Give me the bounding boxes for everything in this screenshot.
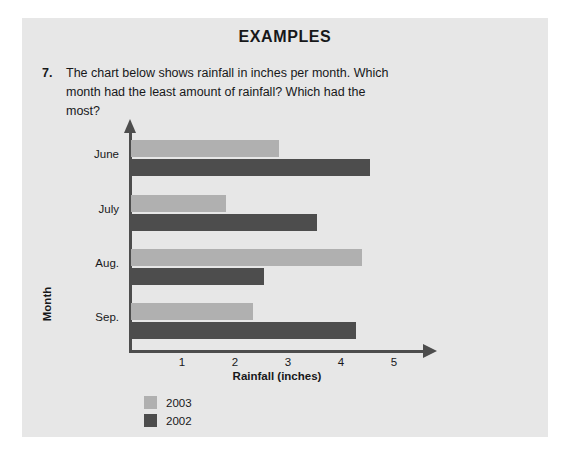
y-axis-title: Month — [41, 259, 53, 349]
bar-sep-2002 — [131, 322, 356, 339]
y-axis-category-label: Aug. — [95, 257, 119, 269]
bar-june-2002 — [131, 159, 370, 176]
y-axis-arrow-icon — [124, 119, 136, 133]
legend-swatch-icon — [144, 396, 157, 409]
chart-legend: 20032002 — [144, 396, 192, 432]
rainfall-bar-chart: Month JuneJulyAug.Sep. 12345 Rainfall (i… — [22, 118, 548, 438]
x-axis-arrow-icon — [423, 344, 437, 358]
x-axis-tick-label: 1 — [167, 356, 197, 368]
x-axis-line — [129, 350, 425, 353]
x-axis-title: Rainfall (inches) — [129, 370, 425, 382]
question-text: The chart below shows rainfall in inches… — [66, 64, 396, 121]
x-axis-tick-label: 5 — [379, 356, 409, 368]
x-axis-tick-label: 2 — [220, 356, 250, 368]
bar-sep-2003 — [131, 303, 253, 320]
bar-aug-2002 — [131, 268, 264, 285]
legend-label: 2003 — [166, 397, 192, 409]
y-axis-category-label: June — [94, 148, 119, 160]
bar-june-2003 — [131, 140, 279, 157]
question-number: 7. — [42, 64, 66, 83]
x-axis-tick-label: 3 — [273, 356, 303, 368]
page-title: EXAMPLES — [22, 28, 548, 46]
legend-label: 2002 — [166, 415, 192, 427]
worksheet-panel: EXAMPLES 7. The chart below shows rainfa… — [22, 18, 548, 437]
legend-swatch-icon — [144, 414, 157, 427]
y-axis-category-label: July — [99, 203, 119, 215]
legend-item-2002: 2002 — [144, 414, 192, 427]
y-axis-category-label: Sep. — [95, 311, 119, 323]
legend-item-2003: 2003 — [144, 396, 192, 409]
x-axis-tick-label: 4 — [326, 356, 356, 368]
bar-july-2002 — [131, 214, 317, 231]
bar-july-2003 — [131, 195, 226, 212]
bar-aug-2003 — [131, 249, 362, 266]
question-item: 7. The chart below shows rainfall in inc… — [42, 64, 522, 121]
plot-area: JuneJulyAug.Sep. 12345 — [129, 132, 429, 350]
